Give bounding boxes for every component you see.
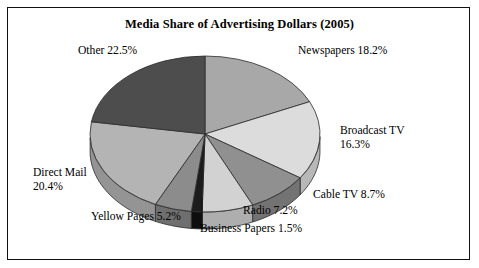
pie-slice-other: [91, 56, 205, 134]
slice-label-broadcast-tv: Broadcast TV 16.3%: [340, 124, 405, 151]
slice-label-business-papers: Business Papers 1.5%: [200, 222, 302, 236]
slice-label-radio: Radio 7.2%: [243, 204, 298, 218]
slice-label-newspapers: Newspapers 18.2%: [298, 44, 388, 58]
pie-chart-figure: Media Share of Advertising Dollars (2005…: [0, 0, 479, 268]
slice-label-other: Other 22.5%: [78, 44, 137, 58]
slice-label-cable-tv: Cable TV 8.7%: [313, 188, 385, 202]
slice-label-yellow-pages: Yellow Pages 5.2%: [91, 210, 181, 224]
pie-slice-tops: [90, 56, 320, 212]
slice-label-direct-mail: Direct Mail 20.4%: [33, 166, 87, 193]
slice-label-direct-mail-line2: 20.4%: [33, 180, 87, 194]
slice-label-broadcast-tv-line1: Broadcast TV: [340, 124, 405, 138]
slice-label-broadcast-tv-line2: 16.3%: [340, 138, 405, 152]
slice-label-direct-mail-line1: Direct Mail: [33, 166, 87, 180]
